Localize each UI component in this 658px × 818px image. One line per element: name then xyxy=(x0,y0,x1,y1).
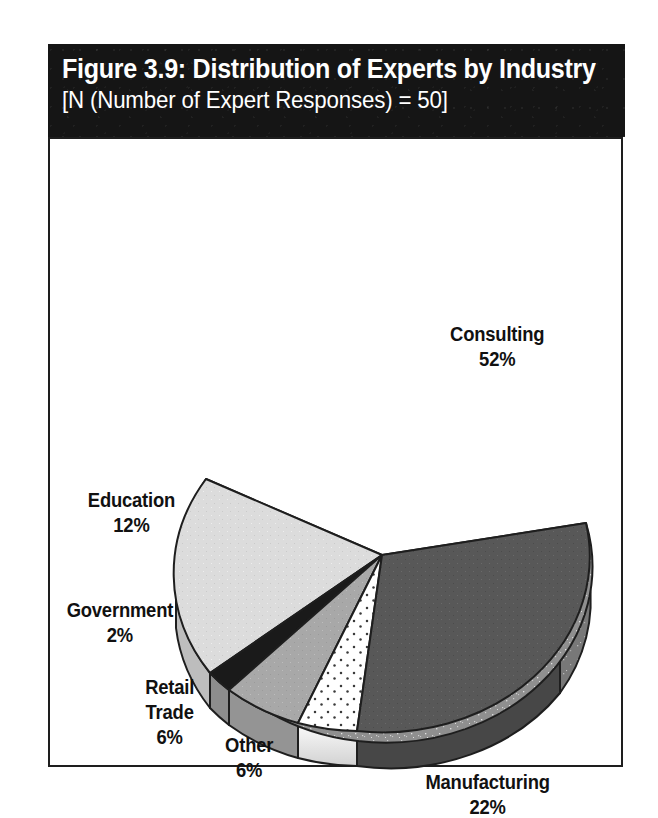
pie-label-retail-trade-value: 6% xyxy=(145,725,194,750)
pie-label-retail-trade-name-line1: Retail xyxy=(145,675,194,700)
pie-label-retail-trade-name-line2: Trade xyxy=(145,700,194,725)
pie-label-government-value: 2% xyxy=(67,623,174,648)
pie-label-education-name: Education xyxy=(88,488,175,513)
pie-label-consulting-value: 52% xyxy=(450,347,544,372)
pie-label-education: Education 12% xyxy=(88,488,175,538)
pie-chart: Consulting 52% Education 12% Government … xyxy=(0,137,658,802)
pie-label-consulting: Consulting 52% xyxy=(450,322,544,372)
pie-label-manufacturing-value: 22% xyxy=(425,795,549,818)
figure-title: Figure 3.9: Distribution of Experts by I… xyxy=(62,53,586,85)
pie-label-other: Other 6% xyxy=(225,733,273,783)
pie-label-retail-trade: Retail Trade 6% xyxy=(145,675,194,750)
pie-label-other-name: Other xyxy=(225,733,273,758)
figure-subtitle: [N (Number of Expert Responses) = 50] xyxy=(62,85,586,115)
pie-slice-manufacturing[interactable] xyxy=(357,523,590,732)
pie-label-other-value: 6% xyxy=(225,758,273,783)
pie-chart-svg xyxy=(0,137,658,802)
pie-label-manufacturing-name: Manufacturing xyxy=(425,770,549,795)
figure-title-banner: Figure 3.9: Distribution of Experts by I… xyxy=(48,44,625,137)
pie-label-government-name: Government xyxy=(67,598,174,623)
pie-label-manufacturing: Manufacturing 22% xyxy=(425,770,549,818)
pie-label-consulting-name: Consulting xyxy=(450,322,544,347)
pie-label-government: Government 2% xyxy=(67,598,174,648)
pie-label-education-value: 12% xyxy=(88,513,175,538)
